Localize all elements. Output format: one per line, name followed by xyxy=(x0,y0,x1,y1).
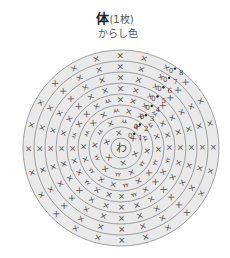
single-crochet-symbol: × xyxy=(208,143,218,151)
single-crochet-symbol: × xyxy=(67,145,77,153)
crochet-round-chart: ×××××××ㅆ×ㅆ×ㅆ×ㅆ×ㅆ×ㅆ×ㅆ××ㅆ××ㅆ××ㅆ××ㅆ××ㅆ××ㅆ××… xyxy=(0,0,230,258)
single-crochet-symbol: × xyxy=(116,50,124,60)
single-crochet-symbol: × xyxy=(142,147,153,156)
single-crochet-symbol: × xyxy=(114,127,123,138)
chain-stitch-symbol: 0 xyxy=(163,76,167,84)
single-crochet-symbol: × xyxy=(197,143,207,151)
slip-stitch-dot xyxy=(139,123,141,125)
round-number-label: 1 xyxy=(138,134,142,142)
round-number-label: 2 xyxy=(144,125,148,133)
chain-stitch-symbol: 0 xyxy=(151,95,155,103)
slip-stitch-dot xyxy=(133,133,135,135)
single-crochet-symbol: × xyxy=(117,72,125,82)
single-crochet-symbol: × xyxy=(116,61,124,71)
increase-stitch-symbol: ㅆ xyxy=(114,169,122,179)
single-crochet-symbol: × xyxy=(78,143,88,151)
round-number-label: 5 xyxy=(162,97,166,105)
slip-stitch-dot xyxy=(151,105,153,107)
chain-stitch-symbol: 0 xyxy=(145,104,149,112)
increase-stitch-symbol: ㅆ xyxy=(120,117,128,127)
slip-stitch-dot xyxy=(145,114,147,116)
increase-stitch-symbol: ㅆ xyxy=(122,180,130,190)
chain-stitch-symbol: 0 xyxy=(140,113,144,121)
chain-stitch-symbol: 0 xyxy=(134,123,138,131)
round-number-label: 6 xyxy=(167,87,172,95)
slip-stitch-dot xyxy=(168,77,170,79)
single-crochet-symbol: × xyxy=(186,144,196,152)
slip-stitch-dot xyxy=(162,86,164,88)
single-crochet-symbol: × xyxy=(118,202,126,212)
single-crochet-symbol: × xyxy=(164,144,174,152)
single-crochet-symbol: × xyxy=(119,158,128,169)
chain-stitch-symbol: 0 xyxy=(128,132,132,140)
round-number-label: 4 xyxy=(156,106,161,114)
chain-stitch-symbol: 0 xyxy=(169,67,173,75)
single-crochet-symbol: × xyxy=(56,145,66,153)
round-number-label: 8 xyxy=(179,69,183,77)
single-crochet-symbol: × xyxy=(117,83,125,93)
round-number-label: 3 xyxy=(150,115,154,123)
slip-stitch-dot xyxy=(174,67,176,69)
single-crochet-symbol: × xyxy=(175,144,185,152)
single-crochet-symbol: × xyxy=(23,145,33,153)
increase-stitch-symbol: ㅆ xyxy=(112,106,120,116)
single-crochet-symbol: × xyxy=(117,94,125,104)
round-number-label: 7 xyxy=(173,78,177,86)
single-crochet-symbol: × xyxy=(118,235,126,245)
chain-stitch-symbol: 0 xyxy=(157,85,161,93)
single-crochet-symbol: × xyxy=(153,145,163,153)
single-crochet-symbol: × xyxy=(89,140,100,149)
slip-stitch-dot xyxy=(156,95,158,97)
single-crochet-symbol: × xyxy=(118,213,126,223)
magic-ring-label: わ xyxy=(116,142,127,155)
single-crochet-symbol: × xyxy=(45,145,55,153)
single-crochet-symbol: × xyxy=(118,191,126,201)
single-crochet-symbol: × xyxy=(34,145,44,153)
single-crochet-symbol: × xyxy=(118,224,126,234)
